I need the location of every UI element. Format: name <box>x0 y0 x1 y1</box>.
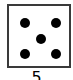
pip-dot <box>51 49 61 59</box>
pip-dot <box>51 18 61 28</box>
pip-dot <box>36 34 46 44</box>
die-face[interactable] <box>7 4 71 68</box>
pip-dot <box>20 18 30 28</box>
die-value-label: 5 <box>0 70 73 80</box>
pip-dot <box>20 49 30 59</box>
